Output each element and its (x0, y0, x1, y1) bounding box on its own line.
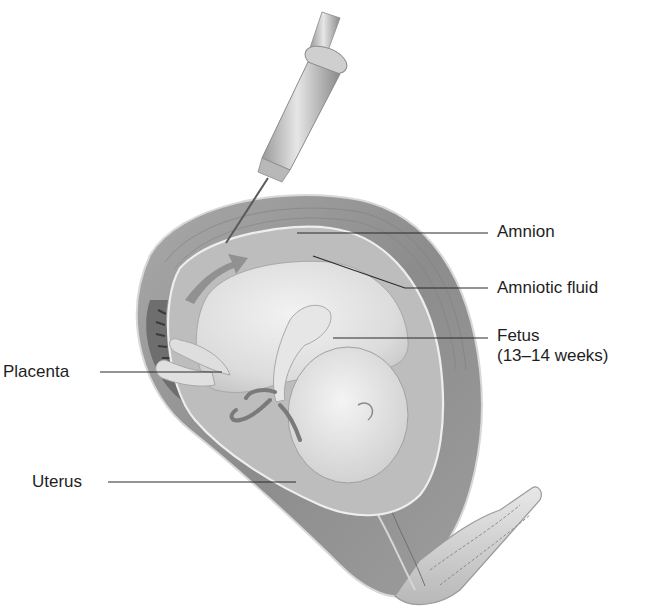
fetus-label: Fetus (13–14 weeks) (497, 326, 609, 366)
fetus-label-title: Fetus (497, 326, 609, 346)
uterus-label: Uterus (32, 472, 82, 492)
placenta-label: Placenta (3, 362, 69, 382)
amniotic-fluid-label: Amniotic fluid (497, 278, 598, 298)
amniocentesis-diagram (0, 0, 649, 616)
amnion-label: Amnion (497, 222, 555, 242)
fetus-age-label: (13–14 weeks) (497, 346, 609, 366)
